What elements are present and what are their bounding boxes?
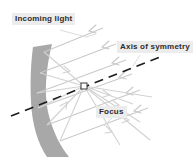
label-axis-of-symmetry: Axis of symmetry [117, 41, 193, 53]
incoming-ray-1 [44, 28, 103, 52]
reflected-ray-arrowheads [60, 66, 129, 133]
diverging-ray-3 [84, 86, 152, 97]
focus-point [81, 83, 87, 89]
arrowhead-incoming-3 [112, 57, 119, 65]
label-incoming-light: Incoming light [12, 13, 75, 25]
leader-axis [133, 55, 140, 66]
arrowhead-incoming-6 [134, 105, 141, 113]
diagram-canvas: Incoming light Axis of symmetry Focus [0, 0, 195, 164]
reflected-ray-6 [60, 86, 84, 141]
arrowhead-incoming-4 [119, 71, 126, 79]
label-focus: Focus [96, 106, 127, 118]
arrowhead-incoming-2 [102, 41, 109, 49]
reflected-ray-5 [47, 86, 84, 125]
